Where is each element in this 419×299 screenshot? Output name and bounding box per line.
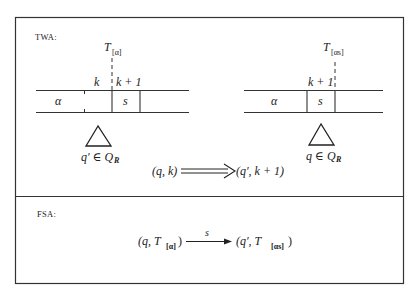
tape-cell-alpha-left: α	[55, 94, 62, 108]
read-head-triangle-right	[309, 124, 334, 145]
read-head-triangle-left	[86, 126, 111, 146]
state-label-right: q ∈ Q	[306, 149, 336, 163]
twa-transition-from: (q, k)	[152, 164, 177, 178]
fsa-arrow-head	[224, 239, 232, 245]
tape-cell-alpha-right: α	[271, 94, 278, 108]
tape-cell-s-right: s	[318, 94, 323, 108]
fsa-transition: (q, T [α] ) s (q′, T [αs] )	[138, 227, 292, 251]
twa-left-config: T [α] k k + 1 α s q′ ∈ Q R	[36, 40, 189, 165]
fsa-from: (q, T	[138, 234, 162, 248]
head-marker-right: T	[323, 40, 331, 54]
position-label-k-plus-1: k + 1	[116, 75, 141, 89]
head-marker-left: T	[104, 40, 112, 54]
fsa-to: (q′, T	[236, 234, 263, 248]
fsa-from-close: )	[178, 234, 182, 248]
twa-transition: (q, k) (q′, k + 1)	[152, 164, 284, 178]
twa-right-config: T [αs] k + 1 α s q ∈ Q R	[244, 40, 383, 164]
position-label-k: k	[94, 75, 100, 89]
twa-transition-to: (q′, k + 1)	[236, 164, 284, 178]
diagram-canvas: TWA: T [α] k k + 1 α s q′ ∈ Q R T [αs] k…	[0, 0, 419, 299]
head-marker-left-sub: [α]	[112, 48, 122, 57]
double-arrow-head	[224, 164, 235, 178]
fsa-label: FSA:	[37, 209, 56, 219]
fsa-to-sub: [αs]	[271, 242, 284, 251]
state-set-sub-left: R	[113, 156, 120, 165]
tape-cell-s-left: s	[123, 94, 128, 108]
fsa-arrow-label: s	[205, 227, 209, 238]
fsa-from-sub: [α]	[166, 242, 176, 251]
twa-label: TWA:	[35, 32, 57, 42]
position-label-k-plus-1-right: k + 1	[308, 75, 333, 89]
outer-frame	[16, 18, 404, 284]
head-marker-right-sub: [αs]	[331, 48, 344, 57]
state-label-left: q′ ∈ Q	[81, 150, 114, 164]
state-set-sub-right: R	[335, 155, 342, 164]
fsa-to-close: )	[288, 234, 292, 248]
